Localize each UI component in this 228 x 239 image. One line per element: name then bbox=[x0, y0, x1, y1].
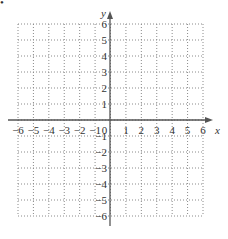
x-tick-label: 1 bbox=[123, 124, 129, 136]
y-tick-label: −1 bbox=[95, 130, 107, 142]
y-tick-label: −6 bbox=[95, 210, 107, 222]
y-tick-label: 3 bbox=[102, 66, 108, 78]
x-tick-label: 5 bbox=[185, 124, 191, 136]
x-tick-label: 2 bbox=[139, 124, 145, 136]
y-tick-label: 5 bbox=[102, 34, 108, 46]
y-tick-label: 1 bbox=[102, 98, 108, 110]
axes bbox=[8, 11, 213, 226]
y-tick-label: −5 bbox=[95, 194, 107, 206]
x-tick-labels: −6−5−4−3−2−10123456 bbox=[12, 124, 206, 136]
y-tick-label: −2 bbox=[95, 146, 107, 158]
y-tick-label: 6 bbox=[102, 18, 108, 30]
x-tick-label: 3 bbox=[154, 124, 160, 136]
x-axis-arrow-icon bbox=[205, 117, 213, 123]
x-tick-label: −3 bbox=[58, 124, 70, 136]
y-tick-label: −4 bbox=[95, 178, 107, 190]
y-tick-label: 2 bbox=[102, 82, 108, 94]
y-tick-label: 4 bbox=[102, 50, 108, 62]
coordinate-plane: • x y −6−5−4−3−2−10123456 123456−1−2−3−4… bbox=[0, 0, 228, 239]
x-tick-label: −6 bbox=[12, 124, 24, 136]
x-tick-label: 6 bbox=[200, 124, 206, 136]
x-tick-label: −2 bbox=[74, 124, 86, 136]
x-tick-label: −4 bbox=[43, 124, 55, 136]
y-axis-arrow-icon bbox=[107, 11, 113, 19]
x-axis-label: x bbox=[214, 124, 220, 136]
y-tick-label: −3 bbox=[95, 162, 107, 174]
x-tick-label: −5 bbox=[28, 124, 40, 136]
x-tick-label: 4 bbox=[169, 124, 175, 136]
problem-marker: • bbox=[0, 0, 4, 8]
